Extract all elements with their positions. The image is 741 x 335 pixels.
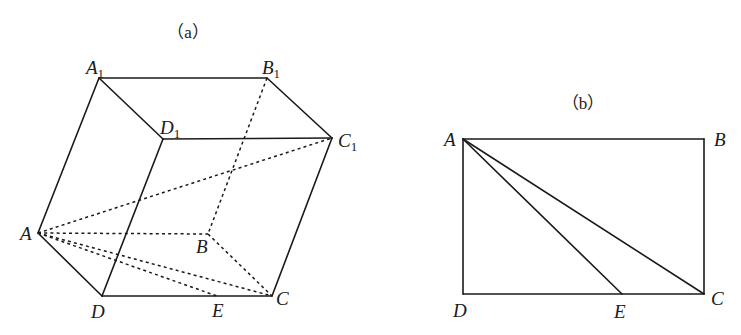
edge-BC-hidden bbox=[208, 234, 272, 296]
edge-C1C bbox=[272, 138, 332, 296]
label-C1: C1 bbox=[338, 130, 357, 154]
geometry-figures: （a） A1 B1 D1 C1 A B D E C （b） bbox=[0, 0, 741, 335]
edge-AC-hidden bbox=[38, 233, 272, 296]
label-A1: A1 bbox=[84, 57, 104, 81]
label-D: D bbox=[452, 300, 467, 321]
label-B: B bbox=[714, 129, 726, 150]
edge-AE-hidden bbox=[38, 233, 217, 296]
diagonal-AC bbox=[463, 139, 704, 294]
edge-D1D bbox=[102, 139, 163, 296]
label-B: B bbox=[196, 236, 208, 257]
edge-B1B-hidden bbox=[208, 78, 267, 234]
edge-B1C1 bbox=[267, 78, 332, 138]
label-E: E bbox=[613, 301, 626, 322]
label-C: C bbox=[711, 288, 724, 309]
edge-A1A bbox=[38, 78, 99, 233]
edge-D1A1 bbox=[99, 78, 163, 139]
edge-C1D1 bbox=[163, 138, 332, 139]
label-A: A bbox=[442, 129, 456, 150]
figure-a: （a） A1 B1 D1 C1 A B D E C bbox=[18, 23, 357, 322]
label-D1: D1 bbox=[159, 117, 180, 141]
figure-b-caption: （b） bbox=[562, 94, 605, 113]
segment-AE bbox=[463, 139, 622, 294]
edge-AB-hidden bbox=[38, 233, 208, 234]
figure-b: （b） A B D E C bbox=[442, 94, 726, 322]
label-A: A bbox=[18, 223, 32, 244]
label-B1: B1 bbox=[262, 57, 280, 81]
figure-a-caption: （a） bbox=[167, 23, 209, 42]
label-D: D bbox=[90, 301, 105, 322]
label-C: C bbox=[276, 288, 289, 309]
label-E: E bbox=[211, 300, 224, 321]
edge-AC1-hidden bbox=[38, 138, 332, 233]
edge-AD bbox=[38, 233, 102, 296]
